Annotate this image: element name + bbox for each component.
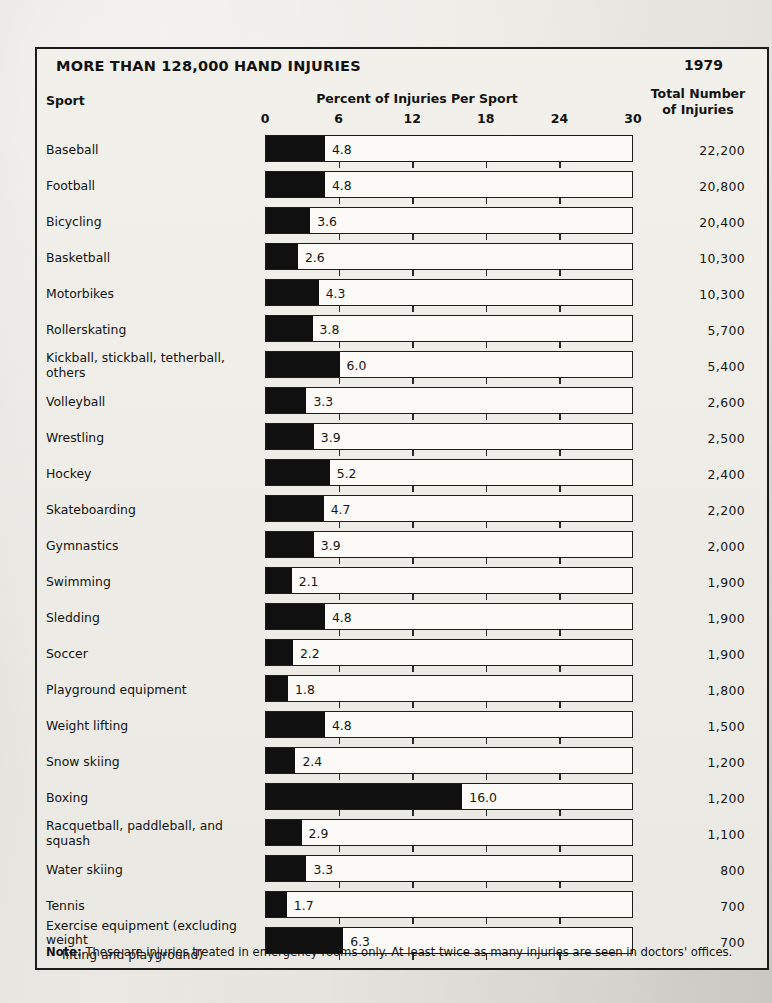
bar-fill	[266, 172, 325, 197]
row-total-value: 1,100	[649, 827, 745, 842]
bar-value-label: 3.8	[320, 321, 340, 336]
bar-track: 4.8	[265, 171, 633, 198]
bar-track: 5.2	[265, 459, 633, 486]
chart-rows: Baseball4.822,200Football4.820,800Bicycl…	[37, 132, 767, 960]
row-label-line1: Swimming	[46, 574, 111, 589]
chart-row: Racquetball, paddleball, and squash2.91,…	[37, 816, 767, 852]
bar-track: 3.9	[265, 531, 633, 558]
scanned-page: MORE THAN 128,000 HAND INJURIES 1979 Spo…	[0, 0, 772, 1003]
row-total-value: 2,200	[649, 503, 745, 518]
row-total-value: 2,600	[649, 395, 745, 410]
row-total-value: 2,500	[649, 431, 745, 446]
bar-value-label: 3.9	[321, 429, 341, 444]
row-label-line1: Tennis	[46, 898, 85, 913]
bar-value-label: 4.8	[332, 609, 352, 624]
bar-value-label: 2.1	[299, 573, 319, 588]
row-label-line1: Football	[46, 178, 95, 193]
x-tick-label: 12	[403, 111, 420, 126]
chart-row: Sledding4.81,900	[37, 600, 767, 636]
bar-track: 2.1	[265, 567, 633, 594]
chart-row: Basketball2.610,300	[37, 240, 767, 276]
row-label: Football	[46, 179, 268, 194]
row-label: Water skiing	[46, 863, 268, 878]
row-label-line1: Hockey	[46, 466, 91, 481]
bar-fill	[266, 352, 340, 377]
row-label-line1: Snow skiing	[46, 754, 120, 769]
row-label: Bicycling	[46, 215, 268, 230]
chart-row: Playground equipment1.81,800	[37, 672, 767, 708]
row-label-line1: Basketball	[46, 250, 110, 265]
bar-fill	[266, 892, 287, 917]
bar-track: 16.0	[265, 783, 633, 810]
bar-value-label: 2.4	[302, 753, 322, 768]
bar-fill	[266, 712, 325, 737]
bar-track: 2.9	[265, 819, 633, 846]
row-label-line1: Motorbikes	[46, 286, 114, 301]
bar-value-label: 4.8	[332, 177, 352, 192]
row-total-value: 20,800	[649, 179, 745, 194]
row-total-value: 5,700	[649, 323, 745, 338]
row-label-line1: Kickball, stickball, tetherball, others	[46, 350, 225, 380]
chart-row: Skateboarding4.72,200	[37, 492, 767, 528]
bar-fill	[266, 676, 288, 701]
row-label-line1: Exercise equipment (excluding weight	[46, 917, 237, 947]
row-label: Weight lifting	[46, 719, 268, 734]
bar-fill	[266, 388, 306, 413]
bar-fill	[266, 640, 293, 665]
bar-fill	[266, 496, 324, 521]
row-label-line1: Playground equipment	[46, 682, 187, 697]
row-total-value: 1,900	[649, 575, 745, 590]
bar-value-label: 3.6	[317, 213, 337, 228]
chart-row: Wrestling3.92,500	[37, 420, 767, 456]
bar-track: 3.6	[265, 207, 633, 234]
bar-value-label: 3.9	[321, 537, 341, 552]
bar-value-label: 2.9	[309, 825, 329, 840]
footnote: Note: These are injuries treated in emer…	[46, 945, 758, 959]
bar-track: 4.3	[265, 279, 633, 306]
row-total-value: 1,500	[649, 719, 745, 734]
year-label: 1979	[684, 57, 723, 73]
bar-fill	[266, 604, 325, 629]
page-title: MORE THAN 128,000 HAND INJURIES	[56, 58, 361, 74]
bar-value-label: 5.2	[337, 465, 357, 480]
chart-row: Hockey5.22,400	[37, 456, 767, 492]
chart-row: Rollerskating3.85,700	[37, 312, 767, 348]
row-label: Volleyball	[46, 395, 268, 410]
chart-row: Swimming2.11,900	[37, 564, 767, 600]
bar-fill	[266, 856, 306, 881]
bar-track: 4.8	[265, 603, 633, 630]
row-label-line1: Water skiing	[46, 862, 123, 877]
bar-track: 4.8	[265, 135, 633, 162]
chart-row: Baseball4.822,200	[37, 132, 767, 168]
row-total-value: 5,400	[649, 359, 745, 374]
bar-fill	[266, 568, 292, 593]
row-label: Boxing	[46, 791, 268, 806]
bar-track: 1.7	[265, 891, 633, 918]
row-total-value: 2,400	[649, 467, 745, 482]
row-label: Tennis	[46, 899, 268, 914]
row-total-value: 1,900	[649, 611, 745, 626]
bar-value-label: 1.7	[294, 897, 314, 912]
row-label-line1: Sledding	[46, 610, 100, 625]
row-total-value: 20,400	[649, 215, 745, 230]
chart-row: Bicycling3.620,400	[37, 204, 767, 240]
bar-value-label: 4.7	[331, 501, 351, 516]
row-label: Skateboarding	[46, 503, 268, 518]
bar-value-label: 2.6	[305, 249, 325, 264]
row-label: Wrestling	[46, 431, 268, 446]
bar-fill	[266, 532, 314, 557]
bar-fill	[266, 208, 310, 233]
row-total-value: 1,200	[649, 755, 745, 770]
chart-row: Weight lifting4.81,500	[37, 708, 767, 744]
bar-value-label: 16.0	[469, 789, 497, 804]
row-total-value: 700	[649, 899, 745, 914]
chart-row: Soccer2.21,900	[37, 636, 767, 672]
bar-fill	[266, 748, 295, 773]
row-label-line1: Racquetball, paddleball, and squash	[46, 818, 223, 848]
row-label-line1: Weight lifting	[46, 718, 128, 733]
x-axis-title: Percent of Injuries Per Sport	[237, 91, 597, 106]
bar-track: 3.3	[265, 855, 633, 882]
row-label: Kickball, stickball, tetherball, others	[46, 351, 268, 381]
bar-fill	[266, 784, 462, 809]
row-label: Basketball	[46, 251, 268, 266]
